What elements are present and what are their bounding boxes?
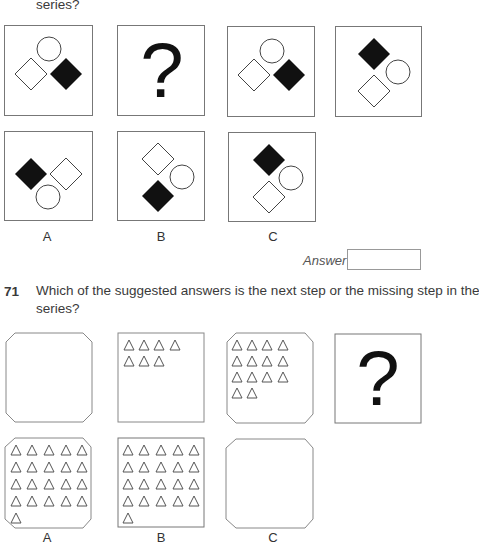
triangle-grid-icon (232, 340, 288, 398)
q71-option-b[interactable] (118, 438, 204, 528)
q70-series-box-2: ? (117, 25, 205, 116)
q71-option-c[interactable] (226, 439, 313, 529)
q70-option-c-label: C (263, 229, 283, 244)
q70-prompt-tail: series? (36, 0, 80, 12)
q70-option-b-label: B (151, 229, 171, 244)
shape-group-icon (336, 27, 423, 118)
shape-group-icon (5, 26, 94, 117)
q71-option-a-label: A (37, 530, 57, 543)
question-mark-icon: ? (335, 336, 421, 420)
shape-group-icon (229, 133, 317, 223)
q71-option-b-label: B (151, 530, 171, 543)
q71-prompt-line1: Which of the suggested answers is the ne… (36, 283, 479, 298)
q70-option-b-box[interactable] (117, 131, 205, 221)
q70-option-a-label: A (37, 229, 57, 244)
q70-series-box-4 (335, 26, 422, 117)
q70-series-box-3 (227, 26, 315, 117)
q70-option-c-box[interactable] (228, 132, 316, 222)
shape-group-icon (228, 27, 316, 118)
shape-group-icon (118, 132, 206, 222)
q70-series-box-1 (4, 25, 93, 116)
q71-series-box-1 (6, 333, 92, 422)
q71-option-a[interactable] (5, 438, 91, 528)
answer-label: Answer (303, 253, 346, 268)
q71-series-box-3 (227, 333, 313, 423)
q71-option-c-label: C (263, 530, 283, 543)
q71-series-box-2 (118, 333, 204, 422)
q70-option-a-box[interactable] (4, 131, 93, 221)
q71-prompt-line2: series? (36, 301, 80, 316)
triangle-grid-icon (124, 340, 180, 366)
question-number: 71 (4, 284, 19, 299)
shape-group-icon (5, 132, 94, 222)
answer-input[interactable] (347, 249, 421, 270)
question-mark-icon: ? (118, 28, 206, 112)
